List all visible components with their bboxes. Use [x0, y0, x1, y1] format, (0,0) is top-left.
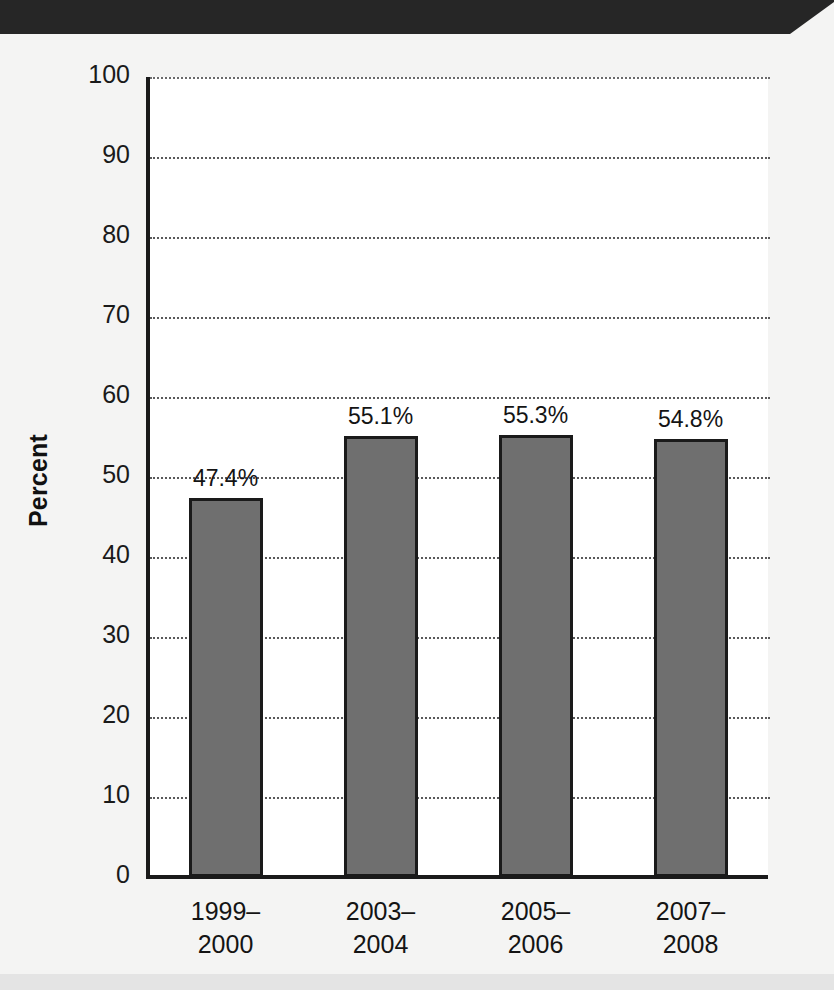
bar-value-label: 54.8% — [621, 406, 761, 433]
x-category-label: 1999–2000 — [148, 895, 304, 961]
x-category-label: 2007–2008 — [613, 895, 769, 961]
y-tick-label: 50 — [20, 460, 130, 489]
bar-value-label: 55.3% — [466, 402, 606, 429]
bar-value-label: 47.4% — [156, 465, 296, 492]
x-category-label-line: 2008 — [613, 928, 769, 961]
x-category-label-line: 2000 — [148, 928, 304, 961]
bar — [654, 439, 728, 877]
x-category-label-line: 2006 — [458, 928, 614, 961]
y-tick-label: 100 — [20, 60, 130, 89]
bottom-light-band — [0, 974, 834, 990]
y-tick-label: 30 — [20, 620, 130, 649]
y-tick-label: 90 — [20, 140, 130, 169]
y-tick-label: 80 — [20, 220, 130, 249]
gridline-80 — [150, 237, 770, 239]
y-tick-label: 0 — [20, 860, 130, 889]
x-category-label-line: 1999– — [148, 895, 304, 928]
bar — [499, 435, 573, 877]
y-tick-label: 60 — [20, 380, 130, 409]
bar — [189, 498, 263, 877]
bar-chart-figure: Percent 0102030405060708090100 47.4%55.1… — [0, 34, 834, 974]
x-category-label: 2003–2004 — [303, 895, 459, 961]
x-category-label-line: 2004 — [303, 928, 459, 961]
x-category-label: 2005–2006 — [458, 895, 614, 961]
x-category-label-line: 2003– — [303, 895, 459, 928]
gridline-90 — [150, 157, 770, 159]
bar-value-label: 55.1% — [311, 403, 451, 430]
bar — [344, 436, 418, 877]
gridline-70 — [150, 317, 770, 319]
x-category-label-line: 2005– — [458, 895, 614, 928]
x-category-label-line: 2007– — [613, 895, 769, 928]
gridline-60 — [150, 397, 770, 399]
y-tick-label: 20 — [20, 700, 130, 729]
y-tick-label: 40 — [20, 540, 130, 569]
y-tick-label: 70 — [20, 300, 130, 329]
y-axis-line — [146, 77, 150, 879]
gridline-100 — [150, 77, 770, 79]
top-black-banner — [0, 0, 834, 34]
y-tick-label: 10 — [20, 780, 130, 809]
